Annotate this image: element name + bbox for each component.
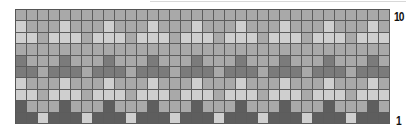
chart-cell [104, 33, 115, 44]
chart-cell [324, 33, 335, 44]
chart-cell [368, 10, 379, 21]
chart-cell [247, 67, 258, 78]
chart-cell [126, 78, 137, 89]
chart-cell [225, 113, 236, 124]
chart-cell [148, 78, 159, 89]
chart-cell [269, 21, 280, 32]
chart-cell [38, 90, 49, 101]
chart-cell [71, 44, 82, 55]
chart-cell [357, 101, 368, 112]
chart-cell [27, 10, 38, 21]
chart-cell [236, 67, 247, 78]
chart-cell [159, 90, 170, 101]
chart-cell [104, 10, 115, 21]
chart-cell [170, 10, 181, 21]
chart-cell [258, 113, 269, 124]
chart-cell [203, 44, 214, 55]
chart-cell [214, 10, 225, 21]
chart-cell [302, 78, 313, 89]
chart-cell [280, 78, 291, 89]
chart-cell [16, 44, 27, 55]
chart-cell [291, 113, 302, 124]
chart-cell [280, 67, 291, 78]
chart-cell [93, 90, 104, 101]
chart-cell [181, 33, 192, 44]
chart-cell [82, 10, 93, 21]
chart-cell [368, 101, 379, 112]
chart-cell [203, 56, 214, 67]
chart-cell [60, 21, 71, 32]
chart-cell [214, 33, 225, 44]
chart-cell [203, 21, 214, 32]
chart-cell [126, 33, 137, 44]
chart-cell [137, 67, 148, 78]
chart-cell [225, 67, 236, 78]
chart-cell [126, 10, 137, 21]
chart-cell [104, 113, 115, 124]
chart-cell [357, 78, 368, 89]
chart-cell [137, 56, 148, 67]
chart-cell [170, 67, 181, 78]
chart-cell [368, 90, 379, 101]
chart-cell [247, 90, 258, 101]
chart-cell [247, 56, 258, 67]
chart-cell [236, 90, 247, 101]
chart-cell [104, 101, 115, 112]
chart-cell [104, 21, 115, 32]
chart-cell [335, 101, 346, 112]
chart-cell [313, 90, 324, 101]
chart-cell [269, 101, 280, 112]
chart-cell [247, 113, 258, 124]
chart-cell [379, 113, 390, 124]
chart-cell [49, 21, 60, 32]
chart-cell [192, 78, 203, 89]
chart-cell [357, 33, 368, 44]
chart-cell [170, 78, 181, 89]
chart-cell [126, 56, 137, 67]
chart-cell [302, 10, 313, 21]
chart-cell [27, 44, 38, 55]
chart-cell [71, 56, 82, 67]
chart-cell [82, 33, 93, 44]
chart-cell [93, 44, 104, 55]
chart-cell [258, 67, 269, 78]
chart-cell [71, 90, 82, 101]
chart-cell [126, 21, 137, 32]
chart-cell [368, 56, 379, 67]
chart-cell [49, 10, 60, 21]
chart-cell [27, 67, 38, 78]
chart-cell [148, 44, 159, 55]
chart-cell [148, 33, 159, 44]
chart-cell [346, 113, 357, 124]
chart-cell [27, 21, 38, 32]
chart-cell [170, 21, 181, 32]
chart-cell [214, 101, 225, 112]
chart-cell [236, 33, 247, 44]
chart-cell [159, 33, 170, 44]
chart-cell [324, 44, 335, 55]
chart-cell [302, 44, 313, 55]
chart-cell [49, 44, 60, 55]
chart-cell [148, 10, 159, 21]
chart-cell [368, 78, 379, 89]
chart-cell [225, 78, 236, 89]
chart-cell [71, 78, 82, 89]
chart-cell [236, 56, 247, 67]
chart-cell [291, 10, 302, 21]
chart-cell [280, 21, 291, 32]
chart-cell [148, 101, 159, 112]
chart-cell [379, 10, 390, 21]
chart-cell [269, 113, 280, 124]
chart-cell [225, 33, 236, 44]
chart-cell [357, 113, 368, 124]
chart-cell [335, 56, 346, 67]
chart-cell [126, 67, 137, 78]
chart-cell [104, 56, 115, 67]
chart-cell [203, 101, 214, 112]
chart-cell [324, 67, 335, 78]
chart-cell [159, 113, 170, 124]
chart-cell [225, 90, 236, 101]
chart-cell [313, 56, 324, 67]
chart-cell [324, 113, 335, 124]
chart-cell [137, 33, 148, 44]
